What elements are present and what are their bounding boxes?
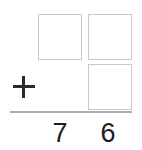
plus-operator-icon	[13, 76, 35, 98]
plus-vertical-bar	[22, 76, 25, 98]
answer-box-top-tens[interactable]	[38, 14, 82, 60]
sum-divider-line	[10, 111, 132, 113]
sum-digit-ones: 6	[91, 118, 125, 148]
answer-box-top-ones[interactable]	[88, 14, 132, 60]
sum-digit-tens: 7	[43, 118, 77, 148]
answer-box-bottom-ones[interactable]	[88, 64, 132, 110]
addition-worksheet: 7 6	[0, 0, 142, 150]
